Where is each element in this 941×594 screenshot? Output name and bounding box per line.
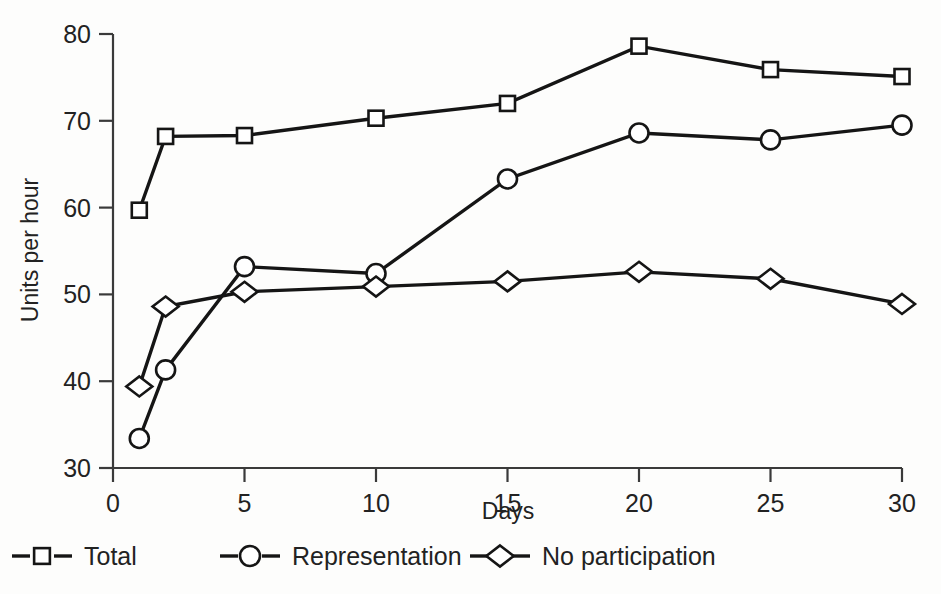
y-tick-label: 80 <box>63 20 91 48</box>
data-point-marker <box>626 262 652 282</box>
legend-marker-diamond-icon <box>486 546 513 567</box>
data-point-marker <box>763 62 778 77</box>
x-tick-label: 0 <box>106 489 120 517</box>
data-point-marker <box>889 294 915 314</box>
x-tick-label: 25 <box>757 489 785 517</box>
series-total <box>132 39 910 218</box>
series-layer <box>126 39 915 448</box>
legend-label: No participation <box>542 542 716 570</box>
x-axis-title: Days <box>482 498 534 524</box>
data-point-marker <box>893 116 912 135</box>
data-point-marker <box>630 123 649 142</box>
y-tick-label: 30 <box>63 454 91 482</box>
data-point-marker <box>758 269 784 289</box>
data-point-marker <box>156 360 175 379</box>
legend-item-no-participation[interactable]: No participation <box>470 542 716 570</box>
data-point-marker <box>632 39 647 54</box>
series-line <box>139 46 902 210</box>
data-point-marker <box>369 111 384 126</box>
data-point-marker <box>153 297 179 317</box>
data-point-marker <box>130 429 149 448</box>
x-tick-label: 20 <box>625 489 653 517</box>
data-point-marker <box>237 128 252 143</box>
data-point-marker <box>895 69 910 84</box>
x-tick-label: 10 <box>362 489 390 517</box>
chart-legend: TotalRepresentationNo participation <box>12 542 716 570</box>
line-chart: 304050607080 051015202530 Units per hour… <box>0 0 941 594</box>
legend-label: Total <box>84 542 137 570</box>
y-tick-label: 60 <box>63 194 91 222</box>
chart-figure: 304050607080 051015202530 Units per hour… <box>0 0 941 594</box>
y-tick-label: 70 <box>63 107 91 135</box>
x-tick-label: 5 <box>238 489 252 517</box>
data-point-marker <box>158 129 173 144</box>
series-no-participation <box>126 262 915 397</box>
legend-item-total[interactable]: Total <box>12 542 137 570</box>
data-point-marker <box>232 282 258 302</box>
data-point-marker <box>126 376 152 396</box>
legend-marker-square-icon <box>34 548 50 564</box>
data-point-marker <box>761 130 780 149</box>
data-point-marker <box>132 203 147 218</box>
y-axis-title: Units per hour <box>17 177 43 322</box>
data-point-marker <box>235 257 254 276</box>
y-axis-tick-labels: 304050607080 <box>63 20 91 482</box>
y-tick-label: 40 <box>63 367 91 395</box>
legend-marker-circle-icon <box>240 546 260 566</box>
x-tick-label: 30 <box>888 489 916 517</box>
data-point-marker <box>498 169 517 188</box>
data-point-marker <box>500 96 515 111</box>
legend-item-representation[interactable]: Representation <box>220 542 462 570</box>
data-point-marker <box>495 271 521 291</box>
data-point-marker <box>363 277 389 297</box>
legend-label: Representation <box>292 542 462 570</box>
y-tick-label: 50 <box>63 280 91 308</box>
